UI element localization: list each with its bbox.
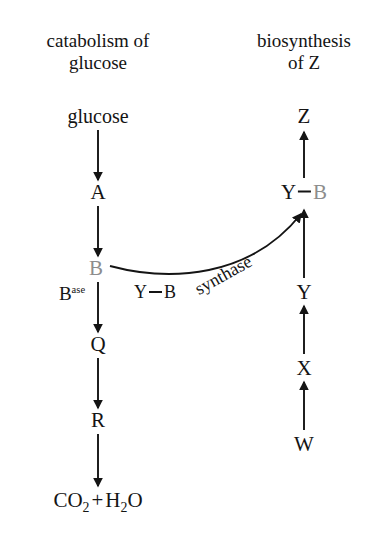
pathway-diagram: catabolism of glucose biosynthesis of Z … bbox=[0, 0, 382, 544]
crosslink-enzyme-label-part1: YB bbox=[134, 283, 176, 301]
node-co2-h2o: CO2+H2O bbox=[53, 490, 142, 511]
node-a: A bbox=[90, 182, 105, 203]
node-glucose: glucose bbox=[67, 106, 128, 126]
right-header-line1: biosynthesis bbox=[257, 30, 351, 52]
node-q: Q bbox=[90, 334, 105, 355]
node-w: W bbox=[294, 434, 314, 455]
right-pathway-header: biosynthesis of Z bbox=[257, 30, 351, 75]
formula-h: H bbox=[105, 488, 120, 512]
crosslink-enzyme-label-part2: synthase bbox=[192, 252, 255, 298]
synthase-b: B bbox=[164, 282, 176, 302]
arrow-b-to-y-b-crosslink bbox=[110, 214, 301, 274]
node-y-b-complex: YB bbox=[281, 182, 327, 203]
node-y: Y bbox=[296, 282, 311, 303]
arrows-layer bbox=[0, 0, 382, 544]
synthase-y: Y bbox=[134, 282, 147, 302]
synthase-bond-icon bbox=[149, 291, 162, 293]
left-header-line2: glucose bbox=[47, 52, 150, 74]
enzyme-base-suffix: ase bbox=[72, 284, 85, 295]
complex-b: B bbox=[313, 180, 327, 204]
node-r: R bbox=[91, 410, 105, 431]
enzyme-label-base: Base bbox=[59, 284, 85, 303]
formula-co-subscript: 2 bbox=[83, 500, 90, 515]
left-header-line1: catabolism of bbox=[47, 30, 150, 52]
chemical-bond-icon bbox=[298, 191, 311, 193]
formula-plus: + bbox=[92, 488, 104, 512]
left-pathway-header: catabolism of glucose bbox=[47, 30, 150, 75]
node-x: X bbox=[296, 358, 311, 379]
formula-co: CO bbox=[53, 488, 82, 512]
formula-o: O bbox=[127, 488, 142, 512]
enzyme-base-letter: B bbox=[59, 283, 72, 304]
node-z: Z bbox=[298, 106, 311, 127]
node-b: B bbox=[89, 258, 103, 279]
complex-y: Y bbox=[281, 180, 296, 204]
right-header-line2: of Z bbox=[257, 52, 351, 74]
